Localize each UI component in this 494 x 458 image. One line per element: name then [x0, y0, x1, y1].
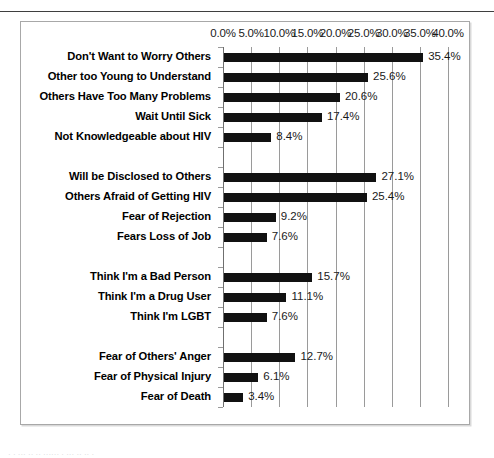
axis-tick	[218, 47, 223, 48]
category-label: Think I'm a Drug User	[98, 292, 211, 301]
x-axis-tick-label: 40.0%	[432, 27, 464, 39]
axis-tick	[218, 207, 223, 208]
category-label: Wait Until Sick	[135, 112, 211, 121]
axis-tick	[218, 367, 223, 368]
x-axis-tick-label: 5.0%	[238, 27, 263, 39]
axis-tick	[218, 227, 223, 228]
bar-value-label: 20.6%	[345, 92, 378, 101]
axis-tick	[218, 147, 223, 148]
x-axis-tick-label: 25.0%	[348, 27, 380, 39]
category-label: Fear of Death	[141, 392, 211, 401]
axis-tick	[218, 287, 223, 288]
bar	[224, 113, 322, 122]
axis-tick	[218, 307, 223, 308]
gridline	[448, 47, 449, 407]
axis-tick	[218, 387, 223, 388]
bar-value-label: 9.2%	[281, 212, 307, 221]
category-label-column: Don't Want to Worry OthersOther too Youn…	[31, 47, 211, 407]
axis-tick	[218, 247, 223, 248]
category-label: Fear of Physical Injury	[94, 372, 211, 381]
bar	[224, 213, 276, 222]
bar	[224, 373, 258, 382]
category-label: Don't Want to Worry Others	[67, 52, 211, 61]
x-axis-tick-label: 0.0%	[210, 27, 235, 39]
clipped-caption-fragment: · · ··· ·· ·· ······ · ··· ·· ·· ·	[8, 450, 348, 455]
bar-value-label: 15.7%	[317, 272, 350, 281]
bar-value-label: 12.7%	[300, 352, 333, 361]
bar	[224, 53, 423, 62]
axis-tick	[218, 67, 223, 68]
axis-tick	[218, 107, 223, 108]
gridline	[420, 47, 421, 407]
bar	[224, 393, 243, 402]
bar	[224, 73, 368, 82]
x-axis-tick-label: 15.0%	[292, 27, 324, 39]
category-label: Fear of Others' Anger	[99, 352, 211, 361]
x-axis-tick-label: 20.0%	[320, 27, 352, 39]
bar	[224, 173, 376, 182]
category-label: Fears Loss of Job	[117, 232, 211, 241]
bar-value-label: 7.6%	[272, 312, 298, 321]
bar-value-label: 27.1%	[381, 172, 414, 181]
bar-value-label: 7.6%	[272, 232, 298, 241]
axis-tick	[218, 347, 223, 348]
category-label: Others Afraid of Getting HIV	[65, 192, 211, 201]
axis-tick	[218, 327, 223, 328]
axis-tick	[218, 87, 223, 88]
bar	[224, 93, 340, 102]
axis-tick	[218, 407, 223, 408]
bar	[224, 133, 271, 142]
bar-value-label: 8.4%	[276, 132, 302, 141]
bar	[224, 293, 286, 302]
bar-value-label: 25.6%	[373, 72, 406, 81]
axis-tick	[218, 187, 223, 188]
axis-tick	[218, 267, 223, 268]
category-label: Think I'm LGBT	[130, 312, 211, 321]
bar-value-label: 25.4%	[372, 192, 405, 201]
plot-area: 0.0%5.0%10.0%15.0%20.0%25.0%30.0%35.0%40…	[223, 47, 448, 407]
bar	[224, 233, 267, 242]
x-axis-tick-label: 30.0%	[376, 27, 408, 39]
category-label: Think I'm a Bad Person	[90, 272, 211, 281]
x-axis-tick-label: 10.0%	[263, 27, 295, 39]
category-label: Will be Disclosed to Others	[69, 172, 211, 181]
gridline	[392, 47, 393, 407]
page-top-rule	[0, 11, 494, 12]
axis-tick	[218, 167, 223, 168]
axis-tick	[218, 127, 223, 128]
category-label: Not Knowledgeable about HIV	[55, 132, 211, 141]
bar-value-label: 17.4%	[327, 112, 360, 121]
bar-value-label: 3.4%	[248, 392, 274, 401]
category-label: Others Have Too Many Problems	[39, 92, 211, 101]
bar	[224, 273, 312, 282]
bar-value-label: 6.1%	[263, 372, 289, 381]
chart-page: Don't Want to Worry OthersOther too Youn…	[0, 0, 494, 458]
bar	[224, 193, 367, 202]
x-axis-tick-label: 35.0%	[404, 27, 436, 39]
bar	[224, 313, 267, 322]
bar	[224, 353, 295, 362]
chart-frame: Don't Want to Worry OthersOther too Youn…	[20, 21, 470, 425]
bar-value-label: 35.4%	[428, 52, 461, 61]
category-label: Other too Young to Understand	[48, 72, 211, 81]
category-label: Fear of Rejection	[122, 212, 211, 221]
bar-value-label: 11.1%	[291, 292, 323, 301]
